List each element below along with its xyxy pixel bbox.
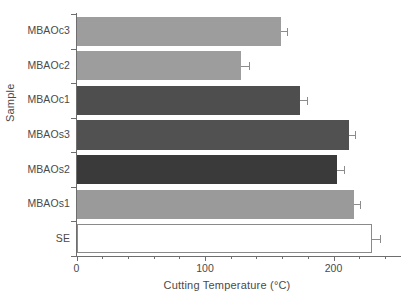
x-tick-minor [359,256,360,259]
x-tick-minor [308,256,309,259]
bar-mbaoc2 [77,51,241,80]
x-tick-label-200: 200 [314,262,354,274]
x-tick-label-100: 100 [185,262,225,274]
x-tick-minor [385,256,386,259]
x-tick-label-0: 0 [57,262,97,274]
y-tick [71,187,77,188]
y-tick-label-mbaos2: MBAOs2 [27,163,70,175]
y-tick [71,49,77,50]
y-tick-label-mbaos3: MBAOs3 [27,128,70,140]
y-tick-label-mbaoc3: MBAOc3 [27,24,70,36]
y-tick [71,152,77,153]
bar-row [77,86,417,115]
error-bar-cap [249,62,250,70]
x-tick-minor [282,256,283,259]
y-axis-title: Sample [4,106,16,122]
error-bar-cap [344,166,345,174]
bar-mbaoc1 [77,86,301,115]
error-bar-cap [287,28,288,36]
x-tick-minor [154,256,155,259]
bar-row [77,51,417,80]
x-tick-major [205,256,206,261]
y-tick-label-mbaos1: MBAOs1 [27,197,70,209]
bar-se [77,224,373,253]
x-tick-major [334,256,335,261]
x-axis-title: Cutting Temperature (°C) [77,279,377,291]
bar-row [77,224,417,253]
x-tick-minor [231,256,232,259]
x-tick-minor [128,256,129,259]
bar-row [77,17,417,46]
error-bar [241,66,249,67]
y-tick-label-se: SE [56,232,70,244]
error-bar-cap [355,131,356,139]
bar-mbaos2 [77,155,338,184]
x-axis-line [76,256,401,257]
x-tick-major [77,256,78,261]
bar-chart: Sample SEMBAOs1MBAOs2MBAOs3MBAOc1MBAOc2M… [0,0,417,303]
bar-mbaos3 [77,120,349,149]
bar-mbaoc3 [77,17,281,46]
y-tick-label-mbaoc1: MBAOc1 [27,93,70,105]
y-tick [71,83,77,84]
error-bar [372,239,380,240]
x-tick-minor [179,256,180,259]
error-bar-cap [307,97,308,105]
y-tick [71,118,77,119]
y-tick [71,221,77,222]
bar-row [77,190,417,219]
error-bar-cap [360,201,361,209]
error-bar-cap [380,235,381,243]
y-tick-label-mbaoc2: MBAOc2 [27,59,70,71]
bar-row [77,155,417,184]
y-tick [71,14,77,15]
bar-row [77,120,417,149]
x-tick-minor [256,256,257,259]
x-tick-minor [102,256,103,259]
bar-mbaos1 [77,190,355,219]
